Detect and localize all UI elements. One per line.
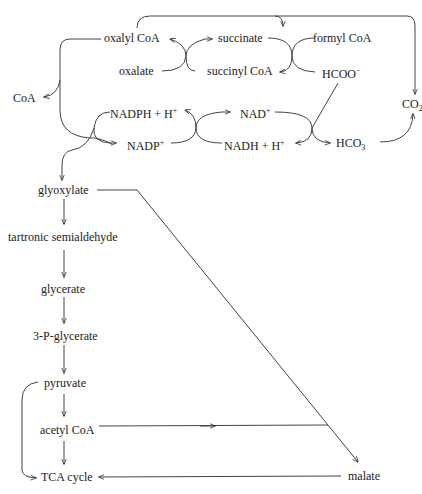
node-hcoo: HCOO− bbox=[322, 64, 361, 81]
node-nadp: NADP+ bbox=[127, 136, 164, 153]
node-label: malate bbox=[348, 469, 380, 483]
node-tartronic-semialdehyde: tartronic semialdehyde bbox=[8, 230, 118, 244]
node-pyruvate: pyruvate bbox=[44, 376, 86, 390]
node-label: oxalyl CoA bbox=[104, 31, 160, 45]
node-label: NAD bbox=[240, 107, 266, 121]
subscript: 3 bbox=[361, 143, 365, 152]
node-label: CO bbox=[402, 97, 419, 111]
node-label: NADPH + H bbox=[110, 107, 173, 121]
node-acetyl-coa: acetyl CoA bbox=[40, 423, 94, 437]
node-3-p-glycerate: 3-P-glycerate bbox=[33, 329, 98, 343]
node-label: glycerate bbox=[41, 282, 85, 296]
node-malate: malate bbox=[348, 469, 380, 483]
node-label: 3-P-glycerate bbox=[33, 329, 98, 343]
node-succinate: succinate bbox=[218, 31, 263, 45]
node-nadph: NADPH + H+ bbox=[110, 104, 177, 121]
node-label: formyl CoA bbox=[313, 31, 371, 45]
pathway-diagram: oxalyl CoA succinate formyl CoA oxalate … bbox=[0, 0, 422, 494]
charge-sup: + bbox=[280, 138, 285, 147]
node-nad: NAD+ bbox=[240, 104, 271, 121]
node-formyl-coa: formyl CoA bbox=[313, 31, 371, 45]
node-hco3: HCO3 bbox=[336, 136, 365, 155]
node-label: CoA bbox=[13, 91, 36, 105]
node-oxalyl-coa: oxalyl CoA bbox=[104, 31, 160, 45]
node-glyoxylate: glyoxylate bbox=[38, 183, 89, 197]
node-label: NADP bbox=[127, 139, 160, 153]
charge-sup: − bbox=[356, 66, 361, 75]
node-label: HCOO bbox=[322, 67, 356, 81]
node-label: pyruvate bbox=[44, 376, 86, 390]
node-coa: CoA bbox=[13, 91, 36, 105]
node-co2: CO2 bbox=[402, 97, 422, 116]
node-label: TCA cycle bbox=[41, 470, 93, 484]
node-label: glyoxylate bbox=[38, 183, 89, 197]
node-label: tartronic semialdehyde bbox=[8, 230, 118, 244]
charge-sup: + bbox=[266, 106, 271, 115]
node-label: succinyl CoA bbox=[207, 64, 273, 78]
node-label: oxalate bbox=[119, 64, 154, 78]
charge-sup: + bbox=[173, 106, 178, 115]
node-oxalate: oxalate bbox=[119, 64, 154, 78]
node-label: NADH + H bbox=[224, 139, 280, 153]
node-succinyl-coa: succinyl CoA bbox=[207, 64, 273, 78]
node-glycerate: glycerate bbox=[41, 282, 85, 296]
node-label: succinate bbox=[218, 31, 263, 45]
node-nadh: NADH + H+ bbox=[224, 136, 285, 153]
node-label: acetyl CoA bbox=[40, 423, 94, 437]
node-tca-cycle: TCA cycle bbox=[41, 470, 93, 484]
node-label: HCO bbox=[336, 136, 361, 150]
charge-sup: + bbox=[160, 138, 165, 147]
